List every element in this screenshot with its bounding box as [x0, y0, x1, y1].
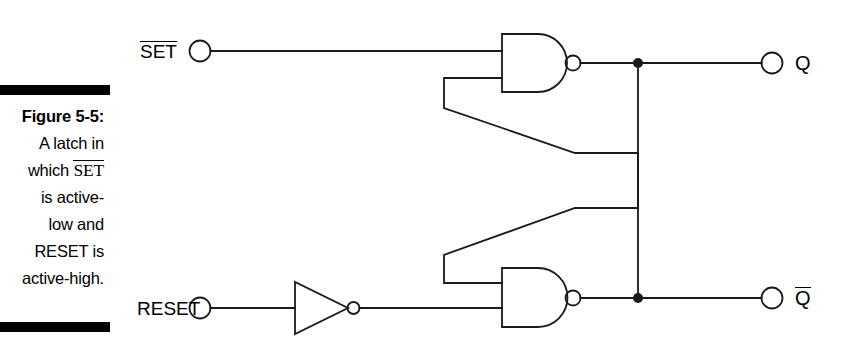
- set-input-terminal[interactable]: [190, 41, 211, 62]
- circuit-diagram: SET RESET Q Q: [0, 0, 843, 341]
- qbar-label-text: Q: [795, 287, 811, 309]
- inverter-gate-body: [295, 282, 348, 334]
- q-output-label: Q: [795, 52, 811, 75]
- feedback-wire-qbar-to-nand-top: [444, 78, 638, 298]
- reset-input-label: RESET: [137, 298, 200, 320]
- nand-gate-bottom-body: [502, 268, 568, 327]
- nand-gate-top-body: [502, 34, 567, 92]
- qbar-output-terminal[interactable]: [762, 288, 783, 309]
- q-output-terminal[interactable]: [762, 53, 783, 74]
- set-label-text: SET: [140, 41, 177, 62]
- feedback-wire-q-to-nand-bottom: [444, 63, 638, 283]
- set-input-label: SET: [140, 41, 177, 63]
- qbar-output-label: Q: [795, 287, 811, 310]
- figure-page: Figure 5-5: A latch in which SET is acti…: [0, 0, 843, 341]
